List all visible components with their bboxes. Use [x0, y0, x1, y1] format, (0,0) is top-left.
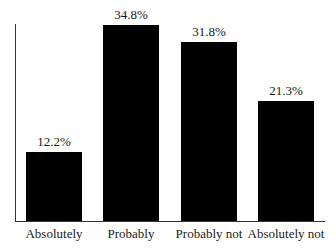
x-axis-line [15, 221, 325, 222]
category-label: Probably [86, 226, 176, 241]
bar-probably [103, 25, 159, 221]
value-label: 31.8% [174, 25, 244, 39]
value-label: 34.8% [96, 8, 166, 22]
y-axis-line [15, 24, 16, 222]
bar-probably-not [181, 42, 237, 221]
category-label: Absolutely not [241, 226, 331, 241]
value-label: 12.2% [19, 135, 89, 149]
bar-chart: 12.2%Absolutely34.8%Probably31.8%Probabl… [0, 0, 335, 248]
bar-absolutely [26, 152, 82, 221]
value-label: 21.3% [251, 84, 321, 98]
bar-absolutely-not [258, 101, 314, 221]
